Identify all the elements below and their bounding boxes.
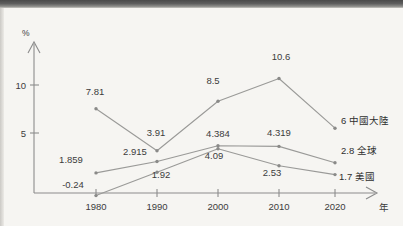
x-tick-label-2020: 2020 xyxy=(324,201,345,212)
line-chart: 10 5 % 1980 1990 2000 2010 2020 年 xyxy=(0,0,403,226)
x-axis-unit-label: 年 xyxy=(379,202,389,213)
y-tick-label-5: 5 xyxy=(21,128,26,139)
series-end-label-global: 2.8 全球 xyxy=(341,145,377,156)
data-point xyxy=(216,100,219,103)
data-label-usa-2000: 4.09 xyxy=(205,150,224,161)
y-axis: 10 5 % xyxy=(15,28,40,193)
series-end-label-china: 6 中國大陸 xyxy=(341,115,389,126)
data-point xyxy=(94,107,97,110)
data-label-global-1980: 1.859 xyxy=(59,154,83,165)
data-point xyxy=(277,77,280,80)
y-tick-label-10: 10 xyxy=(15,80,26,91)
data-label-global-2010: 4.319 xyxy=(267,127,291,138)
data-point xyxy=(333,173,336,176)
data-point xyxy=(333,127,336,130)
data-label-usa-1980: -0.24 xyxy=(62,179,84,190)
x-tick-label-2000: 2000 xyxy=(207,201,228,212)
data-label-china-1980: 7.81 xyxy=(86,86,105,97)
x-tick-label-1980: 1980 xyxy=(85,201,106,212)
data-label-china-1990: 3.91 xyxy=(147,127,166,138)
data-point xyxy=(216,144,219,147)
series-china: 7.81 3.91 8.5 10.6 6 中國大陸 xyxy=(86,51,389,153)
data-point xyxy=(94,194,97,197)
data-label-usa-1990: 1.92 xyxy=(152,169,171,180)
x-tick-label-2010: 2010 xyxy=(268,201,289,212)
y-axis-unit-label: % xyxy=(22,28,30,38)
data-point xyxy=(333,161,336,164)
data-point xyxy=(155,160,158,163)
data-label-global-1990: 2.915 xyxy=(123,146,147,157)
data-label-china-2010: 10.6 xyxy=(272,51,291,62)
series-end-label-usa: 1.7 美國 xyxy=(339,171,375,182)
data-point xyxy=(155,149,158,152)
data-point xyxy=(277,145,280,148)
data-label-china-2000: 8.5 xyxy=(206,75,219,86)
chart-svg: 10 5 % 1980 1990 2000 2010 2020 年 xyxy=(0,0,403,226)
x-axis: 1980 1990 2000 2010 2020 年 xyxy=(34,187,389,213)
data-point xyxy=(94,171,97,174)
data-label-global-2000: 4.384 xyxy=(206,128,230,139)
data-label-usa-2010: 2.53 xyxy=(263,167,282,178)
x-tick-label-1990: 1990 xyxy=(146,201,167,212)
